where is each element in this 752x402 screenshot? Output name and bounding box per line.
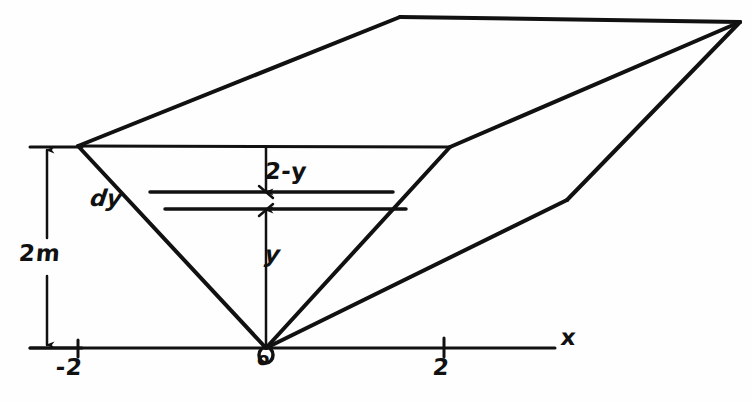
differential-strip [150,192,406,209]
label-origin: o [256,350,270,368]
label-tick-left: -2 [55,356,84,379]
label-depth-from-top: 2-y [264,160,308,183]
label-x-axis: x [560,326,577,349]
front-top-edge [78,146,450,147]
label-tick-right: 2 [432,356,450,379]
label-height-dimension: 2m [18,242,62,265]
front-left-edge [78,146,266,348]
label-height-variable: y [264,243,281,266]
top-face-edges [78,17,740,147]
diagram-canvas: 2-y dy y 2m x o -2 2 [0,0,752,402]
label-strip-thickness: dy [89,187,124,210]
bottom-keel-edge [266,200,567,348]
back-right-edge [567,22,740,200]
